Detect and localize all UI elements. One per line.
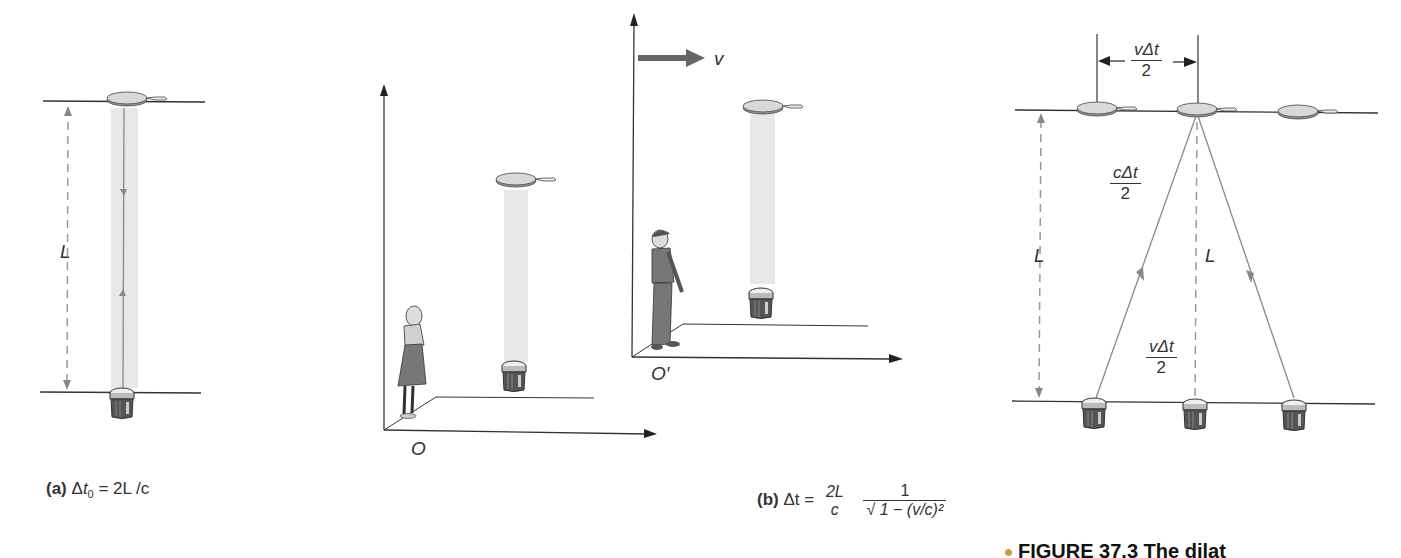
woman-observer-icon (398, 306, 426, 419)
label-left-L: L (1034, 245, 1045, 266)
flashlight-icon (749, 288, 773, 319)
label-observer-o: O (411, 438, 426, 459)
caption-a-equation: = 2L /c (94, 479, 150, 498)
panel-b-frame-o-prime: v O′ (630, 13, 903, 384)
man-observer-icon (651, 230, 682, 350)
flashlight-icon (1282, 400, 1306, 431)
fraction-numerator: vΔt (1146, 337, 1177, 358)
fraction-numerator: vΔt (1131, 40, 1162, 61)
light-beam (750, 112, 775, 284)
label-center-L: L (1205, 245, 1216, 266)
figure-caption: FIGURE 37.3 The dilat (1005, 540, 1226, 558)
panel-b-moving-clock: L L (1012, 34, 1378, 431)
mirror-icon (743, 100, 803, 114)
flashlight-icon (110, 388, 134, 419)
caption-b: (b) Δt = 2Lc 1√ 1 − (v/c)² (757, 482, 950, 519)
light-clock-figure: L O v (0, 0, 1401, 558)
mirror-icon (107, 92, 167, 106)
label-observer-o-prime: O′ (651, 363, 671, 384)
panel-b-frame-o: O (380, 84, 657, 459)
caption-a-label: (a) (46, 479, 67, 498)
flashlight-icon (1082, 398, 1106, 429)
fraction-denominator: 2 (1110, 184, 1141, 204)
mirror-icon (1278, 105, 1338, 119)
mirror-icon (496, 173, 556, 187)
caption-b-label: (b) (757, 490, 779, 509)
bottom-dimension-fraction: vΔt2 (1142, 337, 1181, 378)
panel-a: L (40, 92, 205, 419)
flashlight-icon (1183, 399, 1207, 430)
velocity-arrow-icon (638, 49, 705, 67)
mirror-icon (1077, 102, 1137, 116)
fraction-numerator: 2L (823, 483, 847, 501)
fraction-denominator: 2 (1146, 358, 1177, 378)
mirror-icon (1177, 103, 1237, 117)
fraction-denominator: √ 1 − (v/c)² (863, 501, 946, 519)
delta-symbol: Δ (72, 479, 83, 498)
caption-a: (a) Δt0 = 2L /c (46, 479, 149, 500)
bullet-icon (1005, 549, 1012, 556)
label-L: L (60, 241, 71, 262)
label-velocity: v (714, 48, 725, 69)
light-beam (504, 190, 528, 362)
caption-b-lhs: Δt = (783, 490, 814, 509)
hypotenuse-fraction: cΔt2 (1106, 163, 1145, 204)
fraction-numerator: 1 (863, 482, 946, 501)
top-dimension-fraction: vΔt2 (1127, 40, 1166, 81)
flashlight-icon (502, 361, 526, 392)
fraction-denominator: c (823, 501, 847, 519)
fraction-numerator: cΔt (1110, 163, 1141, 184)
figure-caption-text: FIGURE 37.3 The dilat (1018, 540, 1226, 558)
fraction-denominator: 2 (1131, 61, 1162, 81)
